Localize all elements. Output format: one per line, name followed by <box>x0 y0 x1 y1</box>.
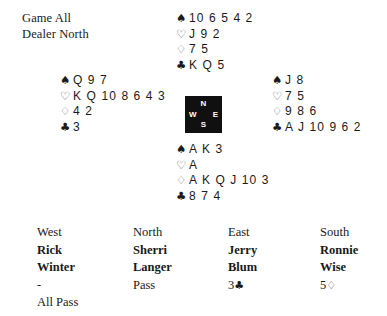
south-diamonds-row: ♢ A K Q J 10 3 <box>176 173 270 189</box>
club-icon: ♣ <box>176 58 189 74</box>
compass-north-label: N <box>201 100 207 108</box>
south-hearts-cards: A <box>189 158 198 174</box>
bid-north-1-level: Pass <box>133 278 155 292</box>
spade-icon: ♠ <box>272 73 285 89</box>
hand-east: ♠ J 8 ♡ 7 5 ♢ 9 8 6 ♣ A J 10 9 6 2 <box>272 73 362 135</box>
hand-north: ♠ 10 6 5 4 2 ♡ J 9 2 ♢ 7 5 ♣ K Q 5 <box>176 11 253 73</box>
diamond-icon: ♢ <box>176 42 189 58</box>
east-diamonds-row: ♢ 9 8 6 <box>272 104 362 120</box>
hand-south: ♠ A K 3 ♡ A ♢ A K Q J 10 3 ♣ 8 7 4 <box>176 142 270 204</box>
heart-icon: ♡ <box>176 27 189 43</box>
west-diamonds-cards: 4 2 <box>73 104 93 120</box>
diamond-icon: ♢ <box>176 173 189 189</box>
bid-west-1: - <box>37 277 78 295</box>
bid-west-2: All Pass <box>37 294 78 312</box>
compass-south-label: S <box>201 121 206 129</box>
auction-table: West Rick Winter - All Pass North Sherri… <box>0 224 387 304</box>
south-clubs-row: ♣ 8 7 4 <box>176 189 270 205</box>
south-spades-cards: A K 3 <box>189 142 223 158</box>
player-name-north-line2: Langer <box>133 259 172 277</box>
bridge-deal-diagram: Game All Dealer North ♠ 10 6 5 4 2 ♡ J 9… <box>0 0 387 316</box>
player-name-south-line1: Ronnie <box>320 242 358 260</box>
east-spades-cards: J 8 <box>285 73 304 89</box>
north-diamonds-row: ♢ 7 5 <box>176 42 253 58</box>
south-hearts-row: ♡ A <box>176 158 270 174</box>
east-spades-row: ♠ J 8 <box>272 73 362 89</box>
diamond-icon: ♢ <box>60 104 73 120</box>
bid-south-1: 5♢ <box>320 277 358 295</box>
east-clubs-cards: A J 10 9 6 2 <box>285 120 362 136</box>
north-clubs-row: ♣ K Q 5 <box>176 58 253 74</box>
north-hearts-cards: J 9 2 <box>189 27 221 43</box>
west-hearts-cards: K Q 10 8 6 4 3 <box>73 89 166 105</box>
board-info: Game All Dealer North <box>22 10 89 42</box>
bid-north-1: Pass <box>133 277 172 295</box>
club-icon: ♣ <box>234 279 244 292</box>
compass-west-label: W <box>189 111 197 119</box>
north-diamonds-cards: 7 5 <box>189 42 209 58</box>
club-icon: ♣ <box>60 120 73 136</box>
south-spades-row: ♠ A K 3 <box>176 142 270 158</box>
auction-column-west: West Rick Winter - All Pass <box>37 224 78 312</box>
player-name-east-line1: Jerry <box>228 242 257 260</box>
west-clubs-row: ♣ 3 <box>60 120 166 136</box>
south-diamonds-cards: A K Q J 10 3 <box>189 173 270 189</box>
east-diamonds-cards: 9 8 6 <box>285 104 317 120</box>
hand-west: ♠ Q 9 7 ♡ K Q 10 8 6 4 3 ♢ 4 2 ♣ 3 <box>60 73 166 135</box>
east-hearts-cards: 7 5 <box>285 89 305 105</box>
west-diamonds-row: ♢ 4 2 <box>60 104 166 120</box>
west-spades-row: ♠ Q 9 7 <box>60 73 166 89</box>
north-clubs-cards: K Q 5 <box>189 58 225 74</box>
north-spades-cards: 10 6 5 4 2 <box>189 11 253 27</box>
bid-east-1: 3♣ <box>228 277 257 295</box>
seat-label-south: South <box>320 224 358 242</box>
auction-column-east: East Jerry Blum 3♣ <box>228 224 257 294</box>
west-hearts-row: ♡ K Q 10 8 6 4 3 <box>60 89 166 105</box>
west-clubs-cards: 3 <box>73 120 81 136</box>
seat-label-east: East <box>228 224 257 242</box>
auction-column-north: North Sherri Langer Pass <box>133 224 172 294</box>
west-spades-cards: Q 9 7 <box>73 73 108 89</box>
bid-west-1-level: - <box>37 278 41 292</box>
compass-rose: N W E S <box>185 96 222 133</box>
player-name-west-line1: Rick <box>37 242 78 260</box>
club-icon: ♣ <box>176 189 189 205</box>
east-clubs-row: ♣ A J 10 9 6 2 <box>272 120 362 136</box>
dealer-label: Dealer North <box>22 26 89 42</box>
vulnerability-label: Game All <box>22 10 89 26</box>
north-spades-row: ♠ 10 6 5 4 2 <box>176 11 253 27</box>
auction-column-south: South Ronnie Wise 5♢ <box>320 224 358 294</box>
diamond-icon: ♢ <box>326 279 336 292</box>
player-name-west-line2: Winter <box>37 259 78 277</box>
player-name-east-line2: Blum <box>228 259 257 277</box>
diamond-icon: ♢ <box>272 104 285 120</box>
east-hearts-row: ♡ 7 5 <box>272 89 362 105</box>
seat-label-north: North <box>133 224 172 242</box>
north-hearts-row: ♡ J 9 2 <box>176 27 253 43</box>
club-icon: ♣ <box>272 120 285 136</box>
spade-icon: ♠ <box>176 11 189 27</box>
heart-icon: ♡ <box>176 158 189 174</box>
south-clubs-cards: 8 7 4 <box>189 189 221 205</box>
player-name-north-line1: Sherri <box>133 242 172 260</box>
spade-icon: ♠ <box>60 73 73 89</box>
compass-east-label: E <box>213 111 218 119</box>
heart-icon: ♡ <box>60 89 73 105</box>
player-name-south-line2: Wise <box>320 259 358 277</box>
spade-icon: ♠ <box>176 142 189 158</box>
seat-label-west: West <box>37 224 78 242</box>
heart-icon: ♡ <box>272 89 285 105</box>
